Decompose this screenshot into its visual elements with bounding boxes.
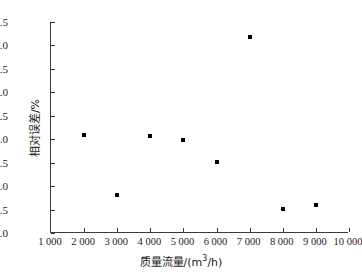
- x-axis-tick: [117, 228, 118, 232]
- x-axis-tick-label: 9 000: [303, 236, 327, 247]
- x-axis-tick-label: 3 000: [104, 236, 128, 247]
- y-axis-tick: [51, 45, 55, 46]
- x-axis-tick-label: 7 000: [237, 236, 261, 247]
- x-axis-tick: [150, 228, 151, 232]
- x-axis-tick: [84, 228, 85, 232]
- y-axis-tick: [51, 92, 55, 93]
- x-axis-label-suffix: /h): [207, 256, 222, 269]
- plot-area: [50, 22, 348, 233]
- x-axis-tick-label: 5 000: [171, 236, 195, 247]
- y-axis-tick-label: 1.0: [0, 87, 8, 98]
- x-axis-tick-label: 1 000: [38, 236, 62, 247]
- y-axis-tick: [51, 22, 55, 23]
- y-axis-tick-label: 0.0: [0, 134, 8, 145]
- x-axis-label-prefix: 质量流量/(m: [140, 256, 203, 269]
- scatter-chart: 相对误差/% 质量流量/(m3/h) 2.52.01.51.00.50.0–0.…: [0, 0, 362, 272]
- y-axis-tick: [51, 139, 55, 140]
- y-axis-tick-label: 1.5: [0, 63, 8, 74]
- x-axis-tick-label: 2 000: [71, 236, 95, 247]
- y-axis-tick: [51, 163, 55, 164]
- y-axis-tick-label: –1.5: [0, 204, 8, 215]
- data-point: [314, 203, 318, 207]
- y-axis-tick: [51, 69, 55, 70]
- x-axis-tick: [217, 228, 218, 232]
- data-point: [248, 35, 252, 39]
- y-axis-tick-label: 2.5: [0, 17, 8, 28]
- data-point: [115, 193, 119, 197]
- x-axis-tick: [349, 228, 350, 232]
- x-axis-tick-label: 4 000: [138, 236, 162, 247]
- x-axis-tick: [316, 228, 317, 232]
- y-axis-tick: [51, 186, 55, 187]
- y-axis-tick-label: 0.5: [0, 110, 8, 121]
- x-axis-tick-label: 10 000: [334, 236, 362, 247]
- data-point: [215, 160, 219, 164]
- y-axis-tick: [51, 233, 55, 234]
- y-axis-tick: [51, 210, 55, 211]
- x-axis-tick-label: 6 000: [204, 236, 228, 247]
- y-axis-tick-label: –2.0: [0, 228, 8, 239]
- data-point: [82, 133, 86, 137]
- y-axis-tick-label: –0.5: [0, 157, 8, 168]
- data-point: [281, 207, 285, 211]
- y-axis-label: 相对误差/%: [29, 99, 42, 157]
- x-axis-label: 质量流量/(m3/h): [0, 252, 362, 269]
- y-axis-tick: [51, 116, 55, 117]
- x-axis-tick: [250, 228, 251, 232]
- data-point: [148, 134, 152, 138]
- x-axis-tick: [183, 228, 184, 232]
- x-axis-tick: [283, 228, 284, 232]
- y-axis-tick-label: 2.0: [0, 40, 8, 51]
- x-axis-tick-label: 8 000: [270, 236, 294, 247]
- y-axis-tick-label: –1.0: [0, 181, 8, 192]
- data-point: [181, 138, 185, 142]
